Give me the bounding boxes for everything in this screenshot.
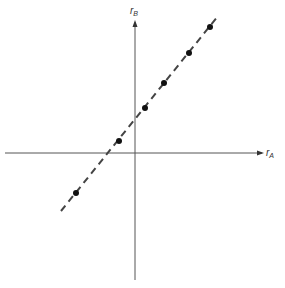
data-point [186,50,192,56]
data-point [142,105,148,111]
diagram-canvas [0,0,285,288]
y-axis-arrow-icon [133,20,138,27]
y-axis-label-sub: B [133,10,138,17]
data-point [116,138,122,144]
data-point [161,80,167,86]
x-axis-label-sub: A [269,152,274,159]
y-axis-label: rB [130,6,138,17]
x-axis-arrow-icon [257,151,264,156]
x-axis-label: rA [266,148,274,159]
data-point [73,190,79,196]
fitted-line [61,16,218,211]
data-point [207,24,213,30]
